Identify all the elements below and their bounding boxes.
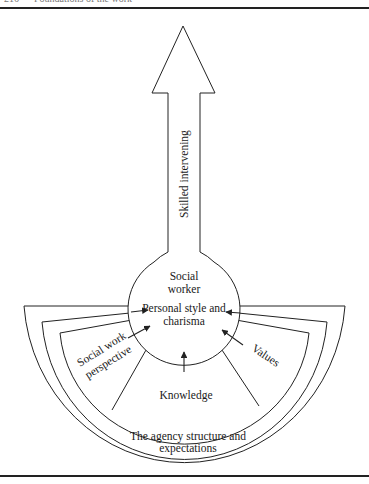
center-line-2: worker bbox=[168, 283, 201, 295]
segment-values: Values bbox=[250, 342, 283, 369]
center-line-1: Social bbox=[170, 270, 199, 282]
skilled-intervening-label: Skilled intervening bbox=[178, 130, 191, 218]
agency-line-2: expectations bbox=[159, 442, 217, 455]
center-line-4: charisma bbox=[163, 315, 205, 327]
divider-right bbox=[222, 350, 259, 406]
segment-knowledge: Knowledge bbox=[159, 389, 212, 402]
social-worker-diagram: Skilled intervening Social worker Person… bbox=[0, 0, 369, 484]
center-line-3: Personal style and bbox=[142, 302, 226, 315]
